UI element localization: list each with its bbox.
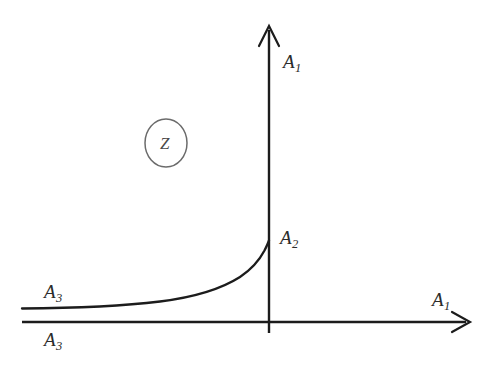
axis-left-end-label: A3 — [44, 330, 62, 349]
horizontal-axis-label-base: A — [432, 289, 444, 310]
axis-left-end-label-subscript: 3 — [56, 339, 62, 353]
curve-left-end-label: A3 — [44, 282, 62, 301]
vertical-axis-label-base: A — [283, 51, 295, 72]
axis-left-end-label-base: A — [44, 329, 56, 350]
curve-left-end-label-base: A — [44, 281, 56, 302]
region-marker-label: Z — [160, 134, 169, 154]
curve-intercept-label-base: A — [280, 227, 292, 248]
vertical-axis-label-subscript: 1 — [295, 61, 301, 75]
curve-intercept-label: A2 — [280, 228, 298, 247]
curve-left-end-label-subscript: 3 — [56, 291, 62, 305]
diagram-svg — [0, 0, 492, 383]
figure-canvas: A1 A1 A2 A3 A3 Z — [0, 0, 492, 383]
curve-intercept-label-subscript: 2 — [292, 237, 298, 251]
vertical-axis-label: A1 — [283, 52, 301, 71]
horizontal-axis-label-subscript: 1 — [444, 299, 450, 313]
horizontal-axis-label: A1 — [432, 290, 450, 309]
